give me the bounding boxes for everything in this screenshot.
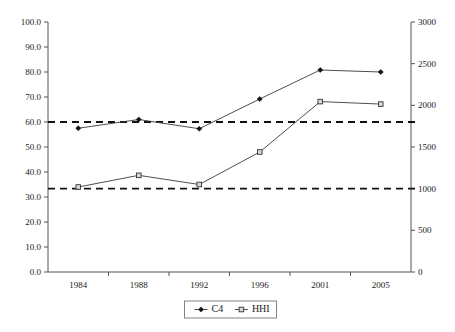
right-tick-label: 3000 <box>418 17 437 27</box>
data-point-marker <box>378 102 383 107</box>
left-tick-label: 40.0 <box>25 167 41 177</box>
right-tick-label: 1500 <box>418 142 437 152</box>
x-axis-label-1996: 1996 <box>251 280 270 290</box>
data-point-marker <box>257 150 262 155</box>
left-tick-label: 60.0 <box>25 117 41 127</box>
right-tick-label: 500 <box>418 225 432 235</box>
data-series-group <box>76 67 384 189</box>
left-tick-label: 20.0 <box>25 217 41 227</box>
reference-lines-group <box>48 122 420 189</box>
chart-legend: C4HHI <box>185 301 277 318</box>
line-chart: 0.010.020.030.040.050.060.070.080.090.01… <box>0 0 455 332</box>
data-point-marker <box>257 96 262 101</box>
x-axis-category-labels: 198419881992199620012005 <box>69 272 390 290</box>
series-line-C4 <box>78 70 381 129</box>
data-point-marker <box>378 69 383 74</box>
x-axis-label-1984: 1984 <box>69 280 88 290</box>
series-line-HHI <box>78 102 381 187</box>
x-axis-label-1992: 1992 <box>190 280 208 290</box>
left-axis-ticks: 0.010.020.030.040.050.060.070.080.090.01… <box>21 17 48 277</box>
right-tick-label: 0 <box>418 267 423 277</box>
right-axis-ticks: 050010001500200025003000 <box>411 17 437 277</box>
data-point-marker <box>76 185 81 190</box>
left-tick-label: 30.0 <box>25 192 41 202</box>
right-tick-label: 2000 <box>418 100 437 110</box>
x-axis-label-2005: 2005 <box>372 280 391 290</box>
data-point-marker <box>197 126 202 131</box>
left-tick-label: 10.0 <box>25 242 41 252</box>
chart-container: 0.010.020.030.040.050.060.070.080.090.01… <box>0 0 455 332</box>
x-axis-label-1988: 1988 <box>130 280 149 290</box>
data-point-marker <box>76 126 81 131</box>
right-tick-label: 1000 <box>418 184 437 194</box>
left-tick-label: 80.0 <box>25 67 41 77</box>
series-HHI <box>76 99 383 189</box>
right-tick-label: 2500 <box>418 59 437 69</box>
data-point-marker <box>239 307 244 312</box>
legend-label-C4: C4 <box>212 303 224 314</box>
x-axis-label-2001: 2001 <box>311 280 329 290</box>
left-tick-label: 90.0 <box>25 42 41 52</box>
left-tick-label: 50.0 <box>25 142 41 152</box>
left-tick-label: 0.0 <box>30 267 42 277</box>
data-point-marker <box>318 67 323 72</box>
left-tick-label: 70.0 <box>25 92 41 102</box>
data-point-marker <box>136 173 141 178</box>
axes-group <box>48 22 411 272</box>
data-point-marker <box>318 99 323 104</box>
data-point-marker <box>197 182 202 187</box>
legend-label-HHI: HHI <box>252 303 270 314</box>
left-tick-label: 100.0 <box>21 17 42 27</box>
